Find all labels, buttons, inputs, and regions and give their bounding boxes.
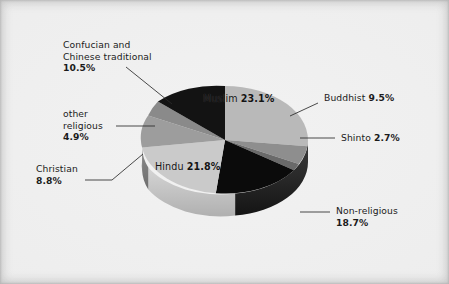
label-buddhist: Buddhist 9.5%	[324, 92, 394, 104]
label-shinto-name: Shinto	[341, 132, 371, 143]
label-other-religious-line2: religious	[63, 120, 103, 131]
pie-chart: Confucian and Chinese traditional 10.5% …	[0, 0, 449, 284]
label-christian-pct: 8.8%	[36, 175, 62, 186]
leader-line-buddhist	[290, 103, 318, 116]
label-hindu-pct: 21.8%	[187, 161, 221, 172]
label-non-religious: Non-religious 18.7%	[336, 205, 398, 228]
label-christian-line1: Christian	[36, 163, 78, 174]
leader-line-christian-elbow	[112, 154, 143, 180]
label-confucian-line2: Chinese traditional	[63, 51, 152, 62]
label-other-religious: other religious 4.9%	[63, 108, 103, 143]
label-non-religious-pct: 18.7%	[336, 217, 368, 228]
label-non-religious-line1: Non-religious	[336, 205, 398, 216]
label-confucian-line1: Confucian and	[63, 39, 130, 50]
label-hindu-name: Hindu	[155, 161, 184, 172]
label-muslim-pct: 23.1%	[241, 93, 275, 104]
label-muslim-name: Muslim	[203, 93, 238, 104]
label-christian: Christian 8.8%	[36, 163, 78, 186]
label-hindu: Hindu 21.8%	[155, 161, 221, 173]
label-other-religious-pct: 4.9%	[63, 131, 89, 142]
label-confucian-pct: 10.5%	[63, 62, 95, 73]
label-confucian: Confucian and Chinese traditional 10.5%	[63, 39, 152, 74]
chart-canvas: Confucian and Chinese traditional 10.5% …	[0, 0, 449, 284]
label-muslim: Muslim 23.1%	[203, 93, 275, 105]
label-buddhist-name: Buddhist	[324, 92, 365, 103]
label-shinto-pct: 2.7%	[374, 132, 400, 143]
label-other-religious-line1: other	[63, 108, 88, 119]
label-shinto: Shinto 2.7%	[341, 132, 400, 144]
label-buddhist-pct: 9.5%	[368, 92, 394, 103]
